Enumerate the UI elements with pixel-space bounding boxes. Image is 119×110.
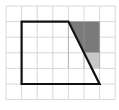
grid-diagram xyxy=(0,0,119,110)
